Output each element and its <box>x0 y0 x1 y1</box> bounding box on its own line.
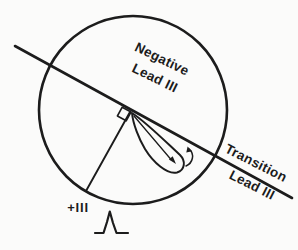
lead-axis-line <box>86 112 130 191</box>
label-positive-pole: +III <box>67 200 89 215</box>
diagram-canvas: Negative Lead III Transition Lead III +I… <box>0 0 298 250</box>
ecg-spike-waveform <box>95 212 128 234</box>
ecg-lead3-transition-diagram: Negative Lead III Transition Lead III +I… <box>0 0 298 250</box>
